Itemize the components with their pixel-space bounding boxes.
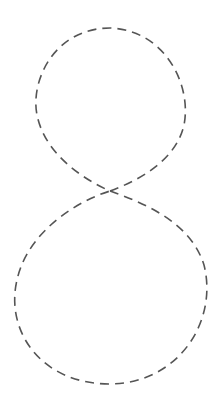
figure-eight-diagram	[0, 0, 221, 411]
figure-eight-path	[15, 28, 207, 384]
